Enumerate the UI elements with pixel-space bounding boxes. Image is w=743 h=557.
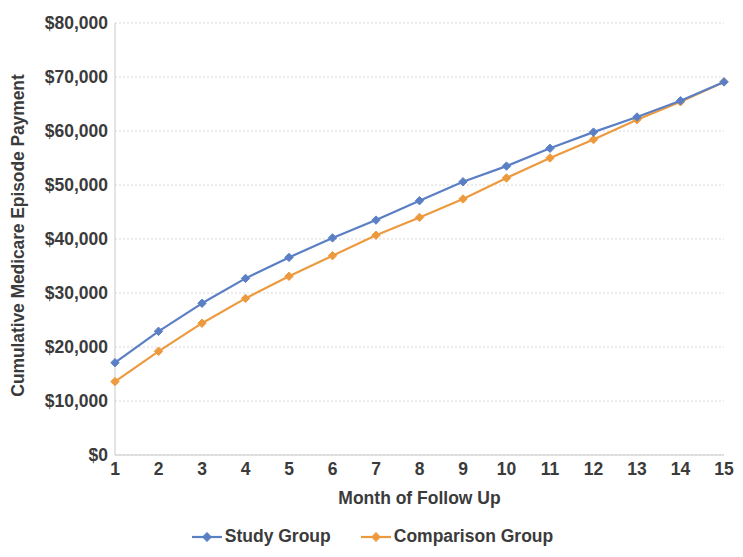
series-line-comparison-group: [115, 82, 724, 382]
x-axis-tick-label: 12: [584, 459, 603, 480]
y-axis-tick-label: $20,000: [45, 337, 108, 358]
y-axis-tick-label: $30,000: [45, 283, 108, 304]
data-point-marker: [546, 154, 554, 162]
y-axis-tick-label: $40,000: [45, 229, 108, 250]
x-axis-tick-label: 1: [110, 459, 120, 480]
data-point-marker: [720, 78, 728, 86]
data-point-marker: [589, 128, 597, 136]
y-axis-tick-label: $60,000: [45, 121, 108, 142]
data-point-marker: [415, 213, 423, 221]
x-axis-tick-label: 4: [241, 459, 251, 480]
y-axis-tick-label: $50,000: [45, 175, 108, 196]
legend-item[interactable]: Study Group: [190, 526, 331, 547]
x-axis-tick-label: 7: [371, 459, 381, 480]
diamond-line-marker: [190, 529, 224, 545]
data-point-marker: [328, 252, 336, 260]
x-axis-tick-label: 13: [627, 459, 646, 480]
legend-item[interactable]: Comparison Group: [359, 526, 553, 547]
x-axis-tick-label: 15: [714, 459, 733, 480]
x-axis-tick-label: 14: [671, 459, 690, 480]
data-point-marker: [328, 234, 336, 242]
data-point-marker: [546, 144, 554, 152]
x-axis-tick-label: 6: [328, 459, 338, 480]
plot-area: [115, 23, 724, 455]
data-point-marker: [415, 197, 423, 205]
data-point-marker: [372, 216, 380, 224]
x-axis-tick-label: 10: [497, 459, 516, 480]
x-axis-tick-label: 3: [197, 459, 207, 480]
data-point-marker: [372, 231, 380, 239]
x-axis-tick-label: 11: [541, 459, 560, 480]
y-axis-tick-labels: $0$10,000$20,000$30,000$40,000$50,000$60…: [34, 0, 112, 470]
x-axis-tick-label: 5: [284, 459, 294, 480]
legend-item-label: Comparison Group: [394, 526, 553, 547]
diamond-line-marker: [359, 529, 393, 545]
y-axis-tick-label: $10,000: [45, 391, 108, 412]
y-axis-tick-label: $80,000: [45, 13, 108, 34]
legend-diamond-marker: [371, 532, 380, 541]
data-point-marker: [285, 272, 293, 280]
y-axis-tick-label: $0: [89, 445, 108, 466]
x-axis-title: Month of Follow Up: [115, 488, 724, 509]
medicare-episode-payment-line-chart: Cumulative Medicare Episode Payment $0$1…: [0, 0, 743, 557]
plot-svg: [115, 23, 724, 455]
data-point-marker: [459, 195, 467, 203]
chart-legend: Study GroupComparison Group: [0, 526, 743, 547]
x-axis-tick-labels: 123456789101112131415: [115, 459, 724, 487]
legend-diamond-marker: [202, 532, 211, 541]
data-point-marker: [285, 253, 293, 261]
data-point-marker: [502, 174, 510, 182]
x-axis-tick-label: 9: [458, 459, 468, 480]
y-axis-title: Cumulative Medicare Episode Payment: [0, 0, 36, 470]
x-axis-tick-label: 8: [415, 459, 425, 480]
data-point-marker: [502, 162, 510, 170]
x-axis-tick-label: 2: [154, 459, 164, 480]
legend-item-label: Study Group: [225, 526, 331, 547]
y-axis-title-label: Cumulative Medicare Episode Payment: [8, 74, 29, 396]
y-axis-tick-label: $70,000: [45, 67, 108, 88]
